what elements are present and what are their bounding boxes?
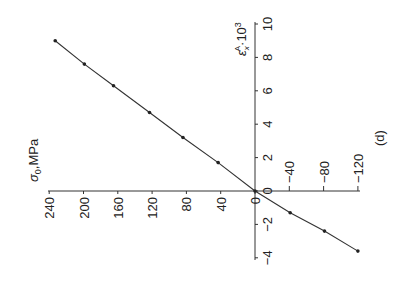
epsilon-tick-label: −4 [260, 250, 275, 265]
sigma-tick-label: 240 [42, 197, 57, 219]
data-point [216, 161, 220, 165]
epsilon-axis-label: εxA·103 [233, 22, 251, 56]
data-point [53, 39, 57, 43]
epsilon-tick-label: 2 [260, 154, 275, 161]
data-point [356, 249, 360, 253]
tick-labels: 24020016012080400−40−80−1201086420−2−4 [42, 17, 366, 265]
data-markers [53, 39, 359, 253]
data-point [112, 84, 116, 88]
panel-label: (d) [372, 130, 387, 146]
epsilon-tick-label: 6 [260, 87, 275, 94]
axis-ticks [49, 24, 358, 258]
data-point [181, 136, 185, 140]
epsilon-tick-label: 0 [260, 187, 275, 194]
sigma-tick-label: −80 [317, 161, 332, 183]
epsilon-tick-label: 8 [260, 54, 275, 61]
sigma-axis-label: σ0,MPa [26, 138, 43, 182]
data-point [148, 111, 152, 115]
epsilon-tick-label: 10 [260, 17, 275, 31]
sigma-tick-label: 120 [145, 197, 160, 219]
sigma-tick-label: 40 [214, 197, 229, 211]
epsilon-tick-label: −2 [260, 217, 275, 232]
sigma-tick-label: 0 [248, 197, 263, 204]
data-point [83, 62, 87, 66]
data-point [253, 189, 257, 193]
data-curve [55, 41, 358, 251]
sigma-tick-label: 200 [77, 197, 92, 219]
sigma-tick-label: −120 [351, 154, 366, 183]
chart-canvas: 24020016012080400−40−80−1201086420−2−4 σ… [0, 0, 405, 286]
data-point [288, 211, 292, 215]
data-point [323, 229, 327, 233]
epsilon-tick-label: 4 [260, 121, 275, 128]
sigma-tick-label: −40 [282, 161, 297, 183]
sigma-tick-label: 160 [111, 197, 126, 219]
sigma-tick-label: 80 [179, 197, 194, 211]
